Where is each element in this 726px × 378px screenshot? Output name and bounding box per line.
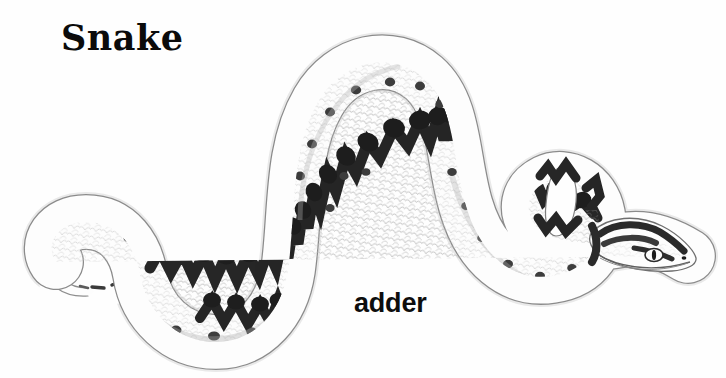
page-title: Snake [61,20,183,55]
snake-eye [645,249,663,262]
species-caption: adder [354,290,427,317]
illustration-page: Snake adder [0,0,726,378]
